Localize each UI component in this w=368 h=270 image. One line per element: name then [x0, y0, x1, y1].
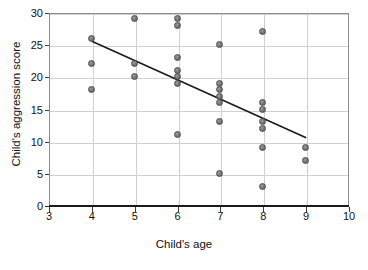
y-axis-tick-label: 10: [3, 137, 43, 148]
y-axis-tick-label: 5: [3, 169, 43, 180]
y-axis-tick: [45, 45, 49, 46]
y-axis-tick: [45, 142, 49, 143]
y-axis-tick-label: 20: [3, 72, 43, 83]
data-point: [131, 73, 138, 80]
x-axis-tick-label: 9: [296, 211, 316, 222]
x-axis-tick-label: 4: [82, 211, 102, 222]
y-axis-tick-label: 0: [3, 201, 43, 212]
scatter-plot-figure: Child's aggression score Child's age 051…: [0, 0, 368, 270]
data-point: [88, 35, 95, 42]
y-axis-tick-label: 30: [3, 8, 43, 19]
data-point: [174, 131, 181, 138]
y-axis-tick: [45, 174, 49, 175]
data-point: [174, 54, 181, 61]
data-point: [88, 86, 95, 93]
data-point: [174, 80, 181, 87]
x-axis-tick-label: 5: [125, 211, 145, 222]
y-axis-tick-label: 25: [3, 40, 43, 51]
y-axis-tick-label: 15: [3, 105, 43, 116]
data-point: [259, 106, 266, 113]
x-axis-tick-label: 6: [168, 211, 188, 222]
y-axis-tick: [45, 13, 49, 14]
y-axis-tick: [45, 77, 49, 78]
x-axis-tick-label: 7: [210, 211, 230, 222]
x-axis-tick-label: 3: [39, 211, 59, 222]
x-axis-tick-label: 8: [253, 211, 273, 222]
regression-line: [49, 13, 349, 206]
x-axis-tick-label: 10: [339, 211, 359, 222]
y-axis-tick: [45, 110, 49, 111]
data-point: [174, 22, 181, 29]
data-point: [259, 183, 266, 190]
x-axis-title: Child's age: [0, 238, 368, 250]
